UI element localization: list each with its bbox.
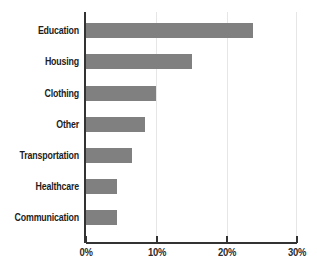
chart-row: Housing: [0, 53, 317, 69]
bar-healthcare[interactable]: [86, 179, 117, 194]
x-tick-label-20: 20%: [210, 246, 244, 258]
category-label-education: Education: [0, 22, 79, 38]
chart-row: Clothing: [0, 85, 317, 101]
category-label-housing: Housing: [0, 53, 79, 69]
x-tick-label-30: 30%: [280, 246, 314, 258]
x-tick-mark-20: [226, 236, 228, 243]
x-tick-label-10: 10%: [140, 246, 174, 258]
bar-education[interactable]: [86, 23, 253, 38]
bar-clothing[interactable]: [86, 86, 156, 101]
x-tick-mark-10: [156, 236, 158, 243]
bar-communication[interactable]: [86, 210, 117, 225]
chart-row: Healthcare: [0, 178, 317, 194]
category-label-transportation: Transportation: [0, 147, 79, 163]
chart-row: Transportation: [0, 147, 317, 163]
chart-row: Communication: [0, 209, 317, 225]
bar-housing[interactable]: [86, 54, 192, 69]
category-label-healthcare: Healthcare: [0, 178, 79, 194]
category-label-other: Other: [0, 116, 79, 132]
x-axis-line: [86, 242, 297, 244]
scan-artifact-strip: [0, 266, 317, 275]
y-axis-line: [84, 12, 86, 243]
chart-row: Education: [0, 22, 317, 38]
category-label-clothing: Clothing: [0, 85, 79, 101]
chart-row: Other: [0, 116, 317, 132]
bar-chart: Education Housing Clothing Other Transpo…: [0, 0, 317, 275]
x-tick-mark-30: [296, 236, 298, 243]
category-label-communication: Communication: [0, 209, 79, 225]
x-tick-mark-0: [85, 236, 87, 243]
x-tick-label-0: 0%: [69, 246, 103, 258]
bar-transportation[interactable]: [86, 148, 132, 163]
bar-other[interactable]: [86, 117, 145, 132]
